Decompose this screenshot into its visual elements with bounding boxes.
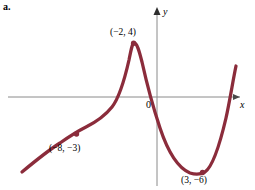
inflection-point-marker [74,131,79,136]
y-axis-arrow-icon [154,7,161,15]
y-axis-label: y [163,7,167,17]
x-axis-label: x [240,100,244,110]
function-curve [22,43,236,174]
inflection-point-label: (−8, −3) [49,144,80,154]
curve-group [22,43,236,174]
origin-label: 0 [146,100,151,110]
local-maximum-label: (−2, 4) [110,28,136,38]
local-maximum-point-marker [131,41,136,46]
x-axis-arrow-icon [233,94,240,100]
figure-panel: a. y x 0 (−2, 4) (−8, −3) (3, −6) [0,0,255,190]
local-minimum-label: (3, −6) [181,176,207,186]
marked-points-group [74,41,205,176]
